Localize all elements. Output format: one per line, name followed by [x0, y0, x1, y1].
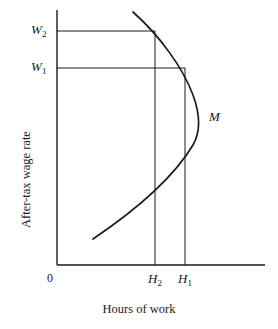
label-h1: H1	[178, 272, 192, 288]
y-axis-title: After-tax wage rate	[20, 48, 36, 228]
label-w2: W2	[31, 23, 47, 39]
supply-curve-m	[93, 12, 199, 239]
chart-canvas	[0, 0, 278, 329]
curve-label-m: M	[209, 110, 220, 123]
label-h2: H2	[148, 272, 162, 288]
chart-figure: W2 W1 H2 H1 M 0 Hours of work After-tax …	[0, 0, 278, 329]
origin-label: 0	[47, 272, 53, 284]
x-axis-title: Hours of work	[0, 303, 278, 316]
